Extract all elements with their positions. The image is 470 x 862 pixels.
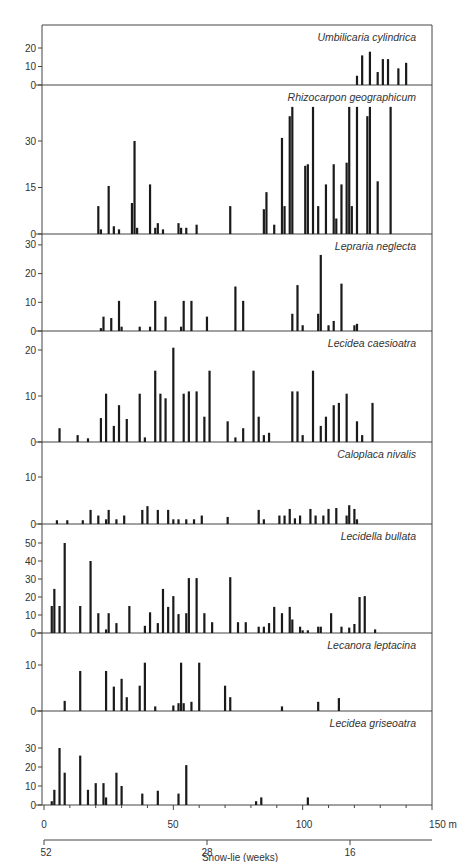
bar [108, 510, 110, 524]
bar [185, 765, 187, 805]
bar [64, 773, 66, 805]
bar [229, 697, 231, 711]
species-label: Lecanora leptacina [327, 639, 416, 651]
bar [172, 596, 174, 633]
bar [283, 516, 285, 524]
bar [77, 435, 79, 442]
bar [149, 612, 151, 633]
bar [53, 790, 55, 805]
y-tick-label: 0 [30, 326, 36, 337]
bar [154, 301, 156, 331]
bar [320, 255, 322, 331]
bar [302, 325, 304, 331]
bar [121, 786, 123, 805]
bar [302, 435, 304, 442]
bar [291, 391, 293, 442]
bar [123, 516, 125, 524]
bar [317, 206, 319, 234]
bar [53, 589, 55, 633]
y-tick-label: 10 [25, 472, 37, 483]
bar [164, 317, 166, 331]
bar [172, 705, 174, 711]
bar [346, 163, 348, 234]
bar [377, 181, 379, 234]
bar [177, 703, 179, 711]
bar [183, 301, 185, 331]
bar [312, 371, 314, 442]
y-tick-label: 10 [25, 660, 37, 671]
bar [291, 314, 293, 331]
bar [79, 606, 81, 633]
bar [317, 702, 319, 711]
bar [258, 627, 260, 633]
bar [190, 702, 192, 711]
y-tick-label: 10 [25, 781, 37, 792]
bar [340, 184, 342, 234]
bar [353, 509, 355, 524]
bar [338, 403, 340, 442]
bar [108, 613, 110, 633]
bar [317, 627, 319, 633]
panel-umbilicaria-cylindrica: 01020Umbilicaria cylindrica [25, 31, 432, 91]
bar [348, 628, 350, 633]
bar [89, 510, 91, 524]
bar [296, 391, 298, 442]
bar [97, 613, 99, 633]
bar [255, 801, 257, 805]
bar [289, 116, 291, 234]
bar [356, 519, 358, 524]
bar [302, 630, 304, 633]
bar [327, 325, 329, 331]
bar [154, 228, 156, 234]
bar [183, 703, 185, 711]
bar [296, 285, 298, 331]
bar [180, 228, 182, 234]
bar [196, 225, 198, 234]
bar [356, 76, 358, 85]
bar [348, 505, 350, 524]
bar [157, 791, 159, 805]
bar [317, 314, 319, 331]
panel-lepraria-neglecta: 0102030Lepraria neglecta [25, 239, 432, 336]
bar [105, 671, 107, 711]
bar [177, 614, 179, 633]
bar [237, 622, 239, 633]
bar [118, 301, 120, 331]
bar [229, 577, 231, 633]
bar [144, 626, 146, 633]
bar [196, 391, 198, 442]
bar [312, 107, 314, 234]
bar [177, 519, 179, 524]
bar [294, 518, 296, 524]
bar [162, 229, 164, 234]
bar [133, 141, 135, 234]
bar [198, 663, 200, 711]
y-tick-label: 15 [25, 182, 37, 193]
bar [149, 184, 151, 234]
y-tick-label: 30 [25, 136, 37, 147]
bar [113, 426, 115, 442]
bar [356, 324, 358, 331]
bar [325, 417, 327, 442]
bar [289, 509, 291, 524]
bar [188, 578, 190, 633]
bar [102, 783, 104, 805]
bar [183, 394, 185, 442]
bar [252, 371, 254, 442]
bar [113, 226, 115, 234]
bar [307, 797, 309, 805]
bar [242, 301, 244, 331]
bar [105, 519, 107, 524]
bar [203, 417, 205, 442]
x-tick-100: 100 [296, 819, 313, 830]
bar [333, 321, 335, 331]
bar [157, 510, 159, 524]
bar [387, 59, 389, 85]
bar [224, 686, 226, 711]
bar [227, 421, 229, 442]
bar [87, 790, 89, 805]
y-tick-label: 10 [25, 297, 37, 308]
bar [141, 794, 143, 805]
y-tick-label: 0 [30, 229, 36, 240]
bar [208, 371, 210, 442]
